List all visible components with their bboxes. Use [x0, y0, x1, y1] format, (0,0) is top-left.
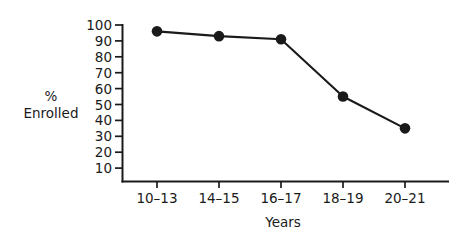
y-tick-label-20: 20 [95, 144, 112, 160]
data-point-2[interactable] [276, 34, 287, 45]
y-tick-label-50: 50 [95, 97, 112, 113]
y-tick-label-80: 80 [95, 49, 112, 65]
chart-container: 100 90 80 70 60 50 40 30 20 10 10–13 14–… [0, 0, 470, 240]
x-tick-label-3: 18–19 [322, 190, 363, 206]
x-axis-title: Years [264, 214, 301, 230]
y-tick-label-90: 90 [95, 33, 112, 49]
data-point-0[interactable] [152, 26, 163, 37]
y-tick-label-60: 60 [95, 81, 112, 97]
x-tick-label-0: 10–13 [136, 190, 177, 206]
y-tick-label-100: 100 [86, 17, 112, 33]
x-tick-label-4: 20–21 [384, 190, 425, 206]
y-axis-title-line2: Enrolled [24, 105, 79, 121]
y-tick-label-10: 10 [95, 160, 112, 176]
x-tick-label-2: 16–17 [260, 190, 301, 206]
data-point-1[interactable] [214, 31, 225, 42]
y-axis-title-line1: % [45, 88, 58, 104]
data-point-4[interactable] [400, 123, 411, 134]
y-tick-label-70: 70 [95, 65, 112, 81]
line-chart: 100 90 80 70 60 50 40 30 20 10 10–13 14–… [0, 0, 470, 240]
y-tick-label-40: 40 [95, 112, 112, 128]
y-tick-label-30: 30 [95, 128, 112, 144]
data-point-3[interactable] [338, 91, 349, 102]
x-tick-label-1: 14–15 [198, 190, 239, 206]
